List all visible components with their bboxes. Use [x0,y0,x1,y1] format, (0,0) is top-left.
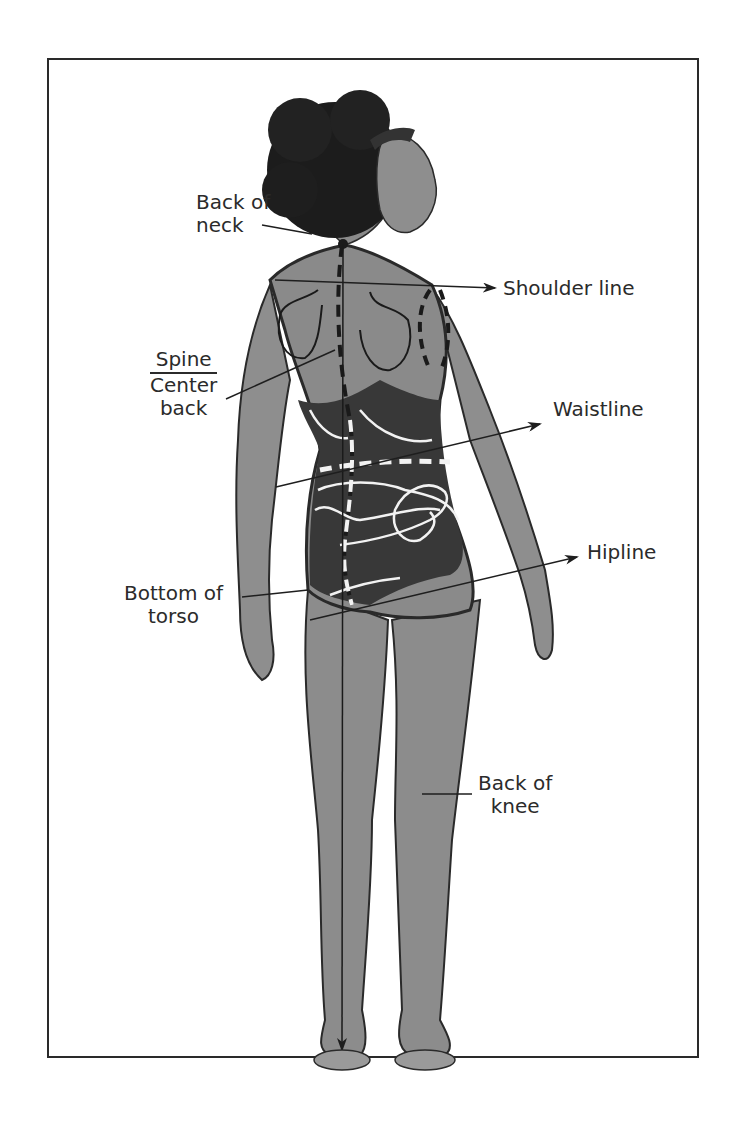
label-line: knee [478,795,552,818]
center-back-length-arrow [342,244,343,1050]
feet [314,1050,455,1070]
label-hipline: Hipline [587,541,656,564]
label-line: Back of [478,772,552,795]
legs [305,590,480,1055]
label-back-of-neck: Back of neck [196,191,270,237]
label-line: torso [124,605,223,628]
swimsuit [298,380,463,605]
label-center: Center [150,374,217,397]
face [377,134,437,232]
label-back: back [150,397,217,420]
label-line: neck [196,214,270,237]
label-spine: Spine [150,348,217,374]
label-shoulder-line: Shoulder line [503,277,635,300]
body-figure-illustration [0,0,732,1143]
label-spine-center-back: Spine Center back [150,348,217,420]
label-line: Bottom of [124,582,223,605]
label-line: Back of [196,191,270,214]
label-waistline: Waistline [553,398,644,421]
label-back-of-knee: Back of knee [478,772,552,818]
label-bottom-of-torso: Bottom of torso [124,582,223,628]
